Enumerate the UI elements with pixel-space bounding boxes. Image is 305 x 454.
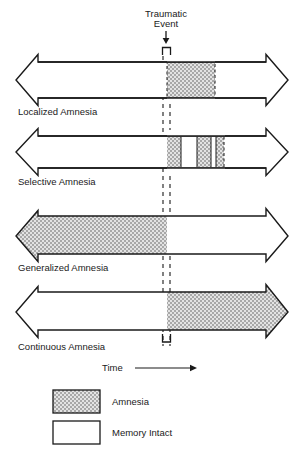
amnesia-block — [216, 137, 224, 168]
legend-label-memory-intact: Memory Intact — [112, 427, 173, 438]
memory-intact-block — [211, 137, 216, 168]
amnesia-block — [167, 137, 181, 168]
row-label-localized: Localized Amnesia — [18, 106, 98, 117]
memory-intact-block — [181, 137, 197, 168]
legend-label-amnesia: Amnesia — [112, 396, 150, 407]
amnesia-types-diagram: Traumatic Event Localized Amnesia — [0, 0, 305, 454]
row-label-selective: Selective Amnesia — [18, 176, 96, 187]
time-axis-label: Time — [102, 362, 123, 373]
traumatic-event-label-line2: Event — [154, 18, 179, 29]
legend-swatch-amnesia — [53, 390, 100, 413]
amnesia-block — [197, 137, 211, 168]
amnesia-block — [167, 63, 215, 98]
row-label-generalized: Generalized Amnesia — [18, 262, 109, 273]
row-label-continuous: Continuous Amnesia — [18, 341, 106, 352]
legend-swatch-memory-intact — [53, 421, 100, 444]
